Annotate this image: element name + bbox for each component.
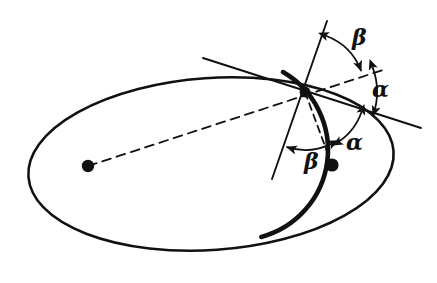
angle-label-alpha-upper: α xyxy=(372,78,389,100)
angle-label-beta-lower: β xyxy=(304,150,319,172)
intersection-point xyxy=(300,87,311,98)
focus-left-point xyxy=(82,160,94,172)
ellipse-outline xyxy=(22,65,399,262)
focal-chord-dashed xyxy=(88,69,386,166)
angle-label-alpha-lower: α xyxy=(346,131,363,153)
focus-right-point xyxy=(325,158,338,171)
angle-label-beta-upper: β xyxy=(352,26,367,48)
figure-canvas xyxy=(0,0,437,283)
geometry-figure: β α α β xyxy=(0,0,437,283)
